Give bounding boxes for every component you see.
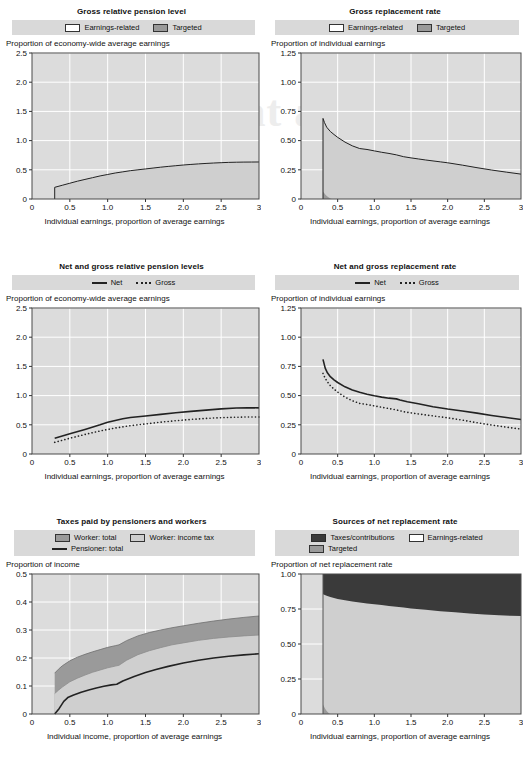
svg-text:1.5: 1.5 <box>16 107 28 116</box>
svg-text:1.5: 1.5 <box>140 203 152 212</box>
legend-item[interactable]: Worker: income tax <box>130 533 213 542</box>
legend-item[interactable]: Earnings-related <box>409 533 483 542</box>
svg-text:1.5: 1.5 <box>140 458 152 467</box>
legend-item[interactable]: Worker: total <box>55 533 116 542</box>
svg-text:0: 0 <box>23 710 28 719</box>
legend-swatch-icon <box>329 24 344 32</box>
svg-text:2.5: 2.5 <box>216 718 228 727</box>
legend-item[interactable]: Earnings-related <box>329 23 403 32</box>
svg-text:0.5: 0.5 <box>332 203 344 212</box>
panel-net-and-gross-relative-pension-levels: Net and gross relative pension levels Ne… <box>0 255 263 510</box>
figure-page: Pensions at a Glance Gross relative pens… <box>0 0 527 777</box>
legend-label: Worker: income tax <box>149 533 213 542</box>
chart-legend: Taxes/contributions Earnings-related Tar… <box>275 530 519 556</box>
legend-swatch-icon <box>409 534 424 542</box>
legend-line-dashed-icon <box>136 282 151 284</box>
svg-text:1.5: 1.5 <box>405 203 417 212</box>
legend-item[interactable]: Net <box>92 278 123 287</box>
svg-text:1.0: 1.0 <box>369 203 381 212</box>
legend-item[interactable]: Earnings-related <box>65 23 139 32</box>
chart-legend: Net Gross <box>12 275 255 290</box>
svg-text:2.0: 2.0 <box>16 333 28 342</box>
svg-text:0: 0 <box>23 195 28 204</box>
legend-label: Targeted <box>436 23 465 32</box>
legend-label: Earnings-related <box>84 23 139 32</box>
chart-title: Gross replacement rate <box>263 0 527 16</box>
legend-item[interactable]: Gross <box>400 278 439 287</box>
svg-text:2.0: 2.0 <box>442 718 454 727</box>
legend-line-solid-icon <box>355 282 370 284</box>
legend-line-solid-icon <box>92 282 107 284</box>
svg-text:0.75: 0.75 <box>280 362 296 371</box>
svg-text:0.25: 0.25 <box>280 675 296 684</box>
svg-text:0.5: 0.5 <box>16 570 28 579</box>
chart-legend: Worker: total Worker: income tax Pension… <box>14 530 255 556</box>
legend-label: Targeted <box>172 23 201 32</box>
chart-title: Sources of net replacement rate <box>263 510 527 526</box>
legend-label: Worker: total <box>74 533 116 542</box>
svg-text:0.5: 0.5 <box>64 203 76 212</box>
svg-text:1.5: 1.5 <box>16 362 28 371</box>
svg-text:2.5: 2.5 <box>216 203 228 212</box>
svg-text:0: 0 <box>292 710 297 719</box>
x-axis-label: Individual earnings, proportion of avera… <box>263 217 527 226</box>
svg-text:0.25: 0.25 <box>280 166 296 175</box>
legend-item[interactable]: Targeted <box>153 23 201 32</box>
svg-text:0: 0 <box>299 458 304 467</box>
svg-text:2.0: 2.0 <box>442 458 454 467</box>
plot-area: 00.250.500.751.001.2500.51.01.52.02.53 <box>271 304 527 472</box>
svg-text:1.0: 1.0 <box>102 718 114 727</box>
svg-text:0.4: 0.4 <box>16 598 28 607</box>
svg-text:2.0: 2.0 <box>178 458 190 467</box>
y-axis-label: Proportion of economy-wide average earni… <box>6 39 263 48</box>
legend-item[interactable]: Gross <box>136 278 175 287</box>
svg-text:3: 3 <box>257 718 261 727</box>
svg-text:2.0: 2.0 <box>442 203 454 212</box>
svg-text:0.5: 0.5 <box>332 718 344 727</box>
plot-svg: 00.10.20.30.40.500.51.01.52.02.53 <box>6 570 261 732</box>
svg-text:1.0: 1.0 <box>102 203 114 212</box>
legend-line-dashed-icon <box>400 282 415 284</box>
svg-text:0.2: 0.2 <box>16 654 28 663</box>
legend-label: Taxes/contributions <box>330 533 394 542</box>
svg-text:1.00: 1.00 <box>280 333 296 342</box>
svg-text:1.0: 1.0 <box>102 458 114 467</box>
svg-text:0.50: 0.50 <box>280 640 296 649</box>
chart-legend: Earnings-related Targeted <box>275 20 519 35</box>
svg-text:1.25: 1.25 <box>280 49 296 58</box>
x-axis-label: Individual earnings, proportion of avera… <box>0 217 263 226</box>
x-axis-label: Individual earnings, proportion of avera… <box>0 472 263 481</box>
legend-label: Pensioner: total <box>71 544 123 553</box>
panel-net-and-gross-replacement-rate: Net and gross replacement rate Net Gross… <box>263 255 527 510</box>
plot-svg: 00.51.01.52.02.500.51.01.52.02.53 <box>6 304 261 472</box>
svg-text:2.5: 2.5 <box>16 304 28 313</box>
legend-item[interactable]: Pensioner: total <box>52 544 244 553</box>
svg-text:0.1: 0.1 <box>16 682 28 691</box>
legend-item[interactable]: Taxes/contributions <box>311 533 394 542</box>
svg-text:1.0: 1.0 <box>369 458 381 467</box>
svg-text:3: 3 <box>519 458 523 467</box>
svg-text:1.00: 1.00 <box>280 570 296 579</box>
svg-text:1.5: 1.5 <box>405 458 417 467</box>
svg-text:2.5: 2.5 <box>216 458 228 467</box>
legend-item[interactable]: Targeted <box>309 544 508 553</box>
svg-text:1.0: 1.0 <box>369 718 381 727</box>
legend-item[interactable]: Targeted <box>417 23 465 32</box>
legend-swatch-icon <box>65 24 80 32</box>
chart-title: Taxes paid by pensioners and workers <box>0 510 263 526</box>
svg-text:0: 0 <box>23 450 28 459</box>
legend-swatch-icon <box>153 24 168 32</box>
x-axis-label: Individual income, proportion of average… <box>0 732 263 741</box>
y-axis-label: Proportion of economy-wide average earni… <box>6 294 263 303</box>
svg-text:0.5: 0.5 <box>64 718 76 727</box>
svg-text:2.5: 2.5 <box>16 49 28 58</box>
svg-text:3: 3 <box>519 203 523 212</box>
svg-text:3: 3 <box>257 458 261 467</box>
svg-text:2.5: 2.5 <box>479 458 491 467</box>
legend-item[interactable]: Net <box>355 278 386 287</box>
svg-text:0: 0 <box>299 718 304 727</box>
y-axis-label: Proportion of individual earnings <box>271 294 527 303</box>
plot-area: 00.51.01.52.02.500.51.01.52.02.53 <box>6 49 263 217</box>
legend-swatch-icon <box>309 545 324 553</box>
plot-svg: 00.51.01.52.02.500.51.01.52.02.53 <box>6 49 261 217</box>
